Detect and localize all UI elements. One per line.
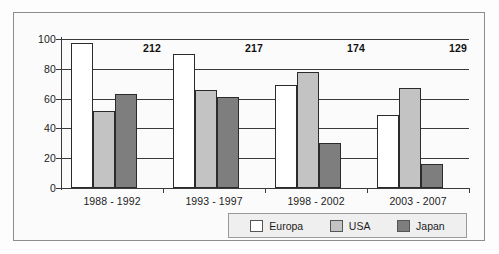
y-tick-label-60: 60	[44, 93, 56, 105]
category-tick-mark	[265, 188, 266, 193]
bar-usa[interactable]	[195, 90, 217, 188]
bar-japan[interactable]	[115, 94, 137, 188]
legend-item-usa[interactable]: USA	[330, 220, 371, 232]
group-total-label: 129	[449, 42, 467, 54]
category-label: 1998 - 2002	[265, 195, 367, 207]
chart-frame: 100 80 60 40 20 0 212217174129 1988 - 19…	[13, 12, 485, 241]
y-axis-tick-labels: 100 80 60 40 20 0	[28, 39, 56, 188]
y-tick-label-100: 100	[38, 33, 56, 45]
bar-japan[interactable]	[217, 97, 239, 188]
bar-japan[interactable]	[319, 143, 341, 188]
group-total-label: 174	[347, 42, 365, 54]
bar-group: 129	[367, 39, 469, 188]
y-tick-label-40: 40	[44, 122, 56, 134]
y-tick-label-80: 80	[44, 63, 56, 75]
legend-item-japan[interactable]: Japan	[397, 220, 445, 232]
legend-swatch-icon-europa	[250, 220, 263, 232]
bar-group: 174	[265, 39, 367, 188]
bar-usa[interactable]	[93, 111, 115, 188]
legend-label-europa: Europa	[269, 220, 303, 232]
bar-usa[interactable]	[399, 88, 421, 188]
bar-europa[interactable]	[173, 54, 195, 188]
bar-group: 217	[163, 39, 265, 188]
group-total-label: 212	[143, 42, 161, 54]
legend-item-europa[interactable]: Europa	[250, 220, 303, 232]
category-tick-mark	[469, 188, 470, 193]
legend-swatch-icon-japan	[397, 220, 410, 232]
bar-group: 212	[61, 39, 163, 188]
bar-europa[interactable]	[71, 43, 93, 188]
category-label: 1988 - 1992	[61, 195, 163, 207]
legend-label-japan: Japan	[416, 220, 445, 232]
category-label: 1993 - 1997	[163, 195, 265, 207]
bar-usa[interactable]	[297, 72, 319, 188]
legend-swatch-icon-usa	[330, 220, 343, 232]
plot-area: 212217174129	[61, 39, 469, 188]
bar-europa[interactable]	[275, 85, 297, 188]
chart-legend: Europa USA Japan	[228, 213, 467, 238]
group-total-label: 217	[245, 42, 263, 54]
chart-page: 100 80 60 40 20 0 212217174129 1988 - 19…	[0, 0, 499, 254]
category-tick-mark	[367, 188, 368, 193]
bar-europa[interactable]	[377, 115, 399, 188]
category-tick-mark	[163, 188, 164, 193]
y-tick-label-20: 20	[44, 152, 56, 164]
legend-label-usa: USA	[349, 220, 371, 232]
bar-japan[interactable]	[421, 164, 443, 188]
category-label: 2003 - 2007	[367, 195, 469, 207]
